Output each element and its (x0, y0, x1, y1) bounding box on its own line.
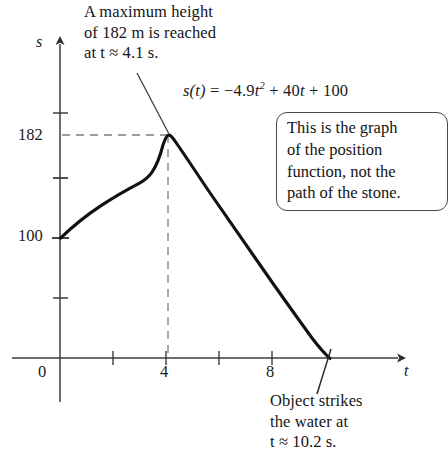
equation-plus-2: + (305, 81, 323, 100)
x-axis-label: t (404, 362, 408, 380)
x-tick-label-4: 4 (160, 362, 168, 382)
equation-term3: 100 (323, 81, 348, 100)
annotation-max-height: A maximum height of 182 m is reached at … (84, 2, 216, 64)
y-tick-label-100: 100 (18, 226, 43, 246)
callout-text: This is the graph of the position functi… (287, 117, 447, 204)
equation-lhs: s(t) (183, 81, 206, 100)
annotation-object-strikes-water: Object strikes the water at t ≈ 10.2 s. (270, 391, 363, 453)
x-tick-label-8: 8 (266, 362, 274, 382)
leader-line-max-height (137, 73, 169, 133)
y-tick-label-182: 182 (18, 125, 43, 145)
equation-term2-coef: 40 (283, 81, 300, 100)
equation-term1-coef: −4.9 (224, 81, 255, 100)
leader-line-strike (317, 349, 331, 394)
y-axis-label: s (36, 33, 42, 51)
equation-equals: = (206, 81, 224, 100)
equation-label: s(t) = −4.9t2 + 40t + 100 (183, 80, 348, 101)
equation-plus-1: + (265, 81, 283, 100)
x-tick-label-0: 0 (38, 362, 46, 382)
